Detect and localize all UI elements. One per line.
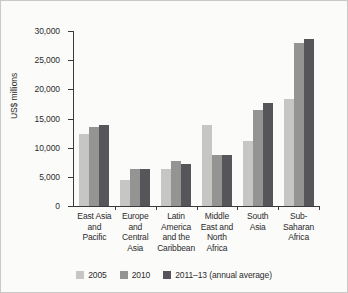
y-axis-tick-label: 20,000 [35, 84, 60, 94]
category-label-line: Central [122, 232, 148, 242]
bar-group [156, 31, 197, 206]
y-axis-title: US$ millions [9, 73, 19, 119]
category-label-line: Middle [205, 211, 229, 221]
y-axis-tick: 30,000 [68, 31, 73, 32]
bar [222, 155, 232, 206]
bar [140, 169, 150, 206]
bar [79, 134, 89, 206]
y-axis-tick: 20,000 [68, 89, 73, 90]
bar-group [237, 31, 278, 206]
category-label-line: Africa [288, 232, 309, 242]
legend-label: 2011–13 (annual average) [175, 270, 272, 280]
category-label-line: East and [201, 222, 233, 232]
category-label: SouthAsia [237, 211, 278, 253]
chart-legend: 200520102011–13 (annual average) [1, 270, 347, 280]
category-label-line: and the [162, 232, 189, 242]
category-label-line: Latin [167, 211, 185, 221]
category-label: LatinAmericaand theCaribbean [156, 211, 197, 253]
category-label-line: North [207, 232, 227, 242]
legend-item[interactable]: 2010 [120, 270, 151, 280]
legend-swatch-icon [120, 271, 128, 279]
legend-item[interactable]: 2005 [76, 270, 107, 280]
y-axis-tick: 25,000 [68, 60, 73, 61]
bar-group [74, 31, 115, 206]
category-label: Sub-SaharanAfrica [278, 211, 319, 253]
bar [120, 180, 130, 206]
legend-label: 2005 [88, 270, 107, 280]
bar [304, 39, 314, 206]
bar [284, 99, 294, 206]
category-label: EuropeandCentralAsia [115, 211, 156, 253]
category-label-line: Asia [127, 243, 143, 253]
category-label-line: South [247, 211, 268, 221]
bar-group [196, 31, 237, 206]
category-label-line: Asia [250, 222, 266, 232]
category-label-line: Saharan [283, 222, 314, 232]
bar [161, 169, 171, 206]
legend-swatch-icon [163, 271, 171, 279]
category-label: MiddleEast andNorthAfrica [196, 211, 237, 253]
y-axis-tick: 5,000 [68, 177, 73, 178]
bar-group [115, 31, 156, 206]
bar [263, 103, 273, 206]
bar [181, 164, 191, 206]
x-axis-tick [197, 206, 198, 210]
bar [243, 141, 253, 206]
bar [253, 110, 263, 206]
category-label-line: Africa [206, 243, 227, 253]
bar [99, 125, 109, 206]
y-axis-tick: 0 [68, 206, 73, 207]
legend-item[interactable]: 2011–13 (annual average) [163, 270, 272, 280]
bar [202, 125, 212, 206]
bar [294, 43, 304, 206]
y-axis-tick-label: 5,000 [39, 172, 60, 182]
bar-chart-figure: US$ millions 30,00025,00020,00015,00010,… [0, 0, 348, 293]
bar [171, 161, 181, 207]
category-label-line: East Asia [77, 211, 111, 221]
category-axis-labels: East AsiaandPacificEuropeandCentralAsiaL… [74, 211, 319, 253]
plot-area: 30,00025,00020,00015,00010,0005,0000 [73, 29, 319, 206]
category-label-line: Caribbean [157, 243, 195, 253]
category-label-line: America [161, 222, 191, 232]
y-axis-tick-label: 0 [55, 201, 60, 211]
y-axis-tick: 15,000 [68, 119, 73, 120]
legend-label: 2010 [132, 270, 151, 280]
category-label-line: and [128, 222, 142, 232]
y-axis-tick-label: 10,000 [35, 143, 60, 153]
x-axis-tick [115, 206, 116, 210]
category-label: East AsiaandPacific [74, 211, 115, 253]
x-axis-tick [278, 206, 279, 210]
bar-groups [74, 31, 319, 206]
bar [89, 127, 99, 206]
y-axis-tick: 10,000 [68, 148, 73, 149]
category-label-line: Sub- [290, 211, 307, 221]
y-axis-tick-label: 25,000 [35, 55, 60, 65]
category-label-line: Europe [122, 211, 149, 221]
x-axis-tick [156, 206, 157, 210]
y-axis-tick-label: 15,000 [35, 114, 60, 124]
category-label-line: Pacific [82, 232, 106, 242]
category-label-line: and [88, 222, 102, 232]
bar [130, 169, 140, 206]
legend-swatch-icon [76, 271, 84, 279]
x-axis-tick [319, 206, 320, 210]
bar-group [278, 31, 319, 206]
bar [212, 155, 222, 206]
y-axis-tick-label: 30,000 [35, 26, 60, 36]
x-axis-tick [237, 206, 238, 210]
